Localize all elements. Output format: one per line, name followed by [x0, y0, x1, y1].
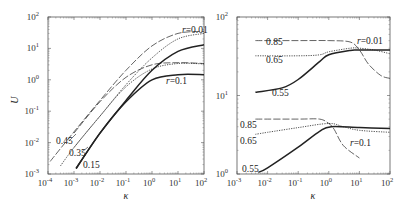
r-label: r=0.1 — [350, 138, 371, 148]
x-tick-label: 10-4 — [38, 176, 53, 188]
x-tick-label: 10-1 — [288, 176, 302, 188]
left-plot: 10-410-310-210-110010110210-310-210-1100… — [9, 10, 208, 201]
series-line — [255, 119, 359, 158]
r-label: r=0.01 — [357, 36, 383, 46]
x-tick-label: 10-2 — [90, 176, 104, 188]
curve-label: 0.65 — [266, 55, 283, 65]
y-tick-label: 102 — [27, 10, 39, 22]
x-tick-label: 100 — [320, 176, 332, 188]
y-tick-label: 102 — [216, 10, 228, 22]
curve-label: 0.55 — [272, 88, 289, 98]
y-tick-label: 10-2 — [25, 136, 39, 148]
figure: 10-410-310-210-110010110210-310-210-1100… — [0, 0, 411, 205]
x-tick-label: 101 — [350, 176, 362, 188]
x-tick-label: 102 — [195, 176, 207, 188]
curve-label: 0.55 — [242, 164, 259, 174]
x-tick-label: 10-3 — [227, 176, 241, 188]
y-axis-label: U — [9, 96, 20, 104]
right-plot: 10-310-210-11001011021001011020.850.650.… — [216, 10, 393, 201]
x-axis-label: κ — [124, 190, 129, 201]
y-tick-label: 10-1 — [25, 104, 39, 116]
x-tick-label: 10-2 — [257, 176, 271, 188]
series-line — [74, 63, 204, 133]
curve-label: 0.85 — [266, 37, 283, 47]
x-tick-label: 10-1 — [116, 176, 130, 188]
y-tick-label: 101 — [216, 89, 228, 101]
x-tick-label: 102 — [381, 176, 393, 188]
curve-label: 0.85 — [240, 120, 257, 130]
curve-label: 0.45 — [56, 136, 73, 146]
series-line — [60, 33, 204, 166]
curve-label: 0.15 — [83, 160, 100, 170]
r-label: r=0.01 — [182, 25, 208, 35]
y-tick-label: 101 — [27, 41, 39, 53]
series-line — [76, 74, 204, 168]
x-tick-label: 10-3 — [64, 176, 78, 188]
series-line — [258, 127, 390, 173]
curve-label: 0.35 — [69, 148, 86, 158]
r-label: r=0.1 — [166, 76, 187, 86]
x-tick-label: 101 — [169, 176, 181, 188]
y-tick-label: 100 — [27, 73, 39, 85]
curve-label: 0.65 — [240, 136, 257, 146]
x-axis-label: κ — [311, 190, 316, 201]
x-tick-label: 100 — [143, 176, 155, 188]
